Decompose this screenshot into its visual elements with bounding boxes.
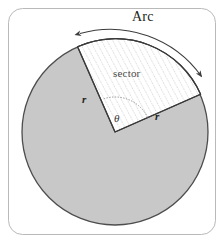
- diagram-canvas: [0, 0, 224, 243]
- radius-right-label: r: [155, 111, 159, 122]
- sector-diagram-figure: Arc sector r r θ: [0, 0, 224, 243]
- sector-label: sector: [113, 68, 140, 79]
- arc-label: Arc: [132, 10, 154, 24]
- radius-left-label: r: [82, 94, 86, 105]
- angle-theta-label: θ: [114, 113, 119, 124]
